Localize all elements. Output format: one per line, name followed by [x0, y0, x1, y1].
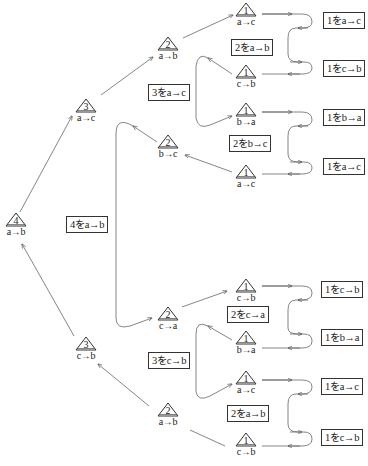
triangle-icon: 1 [235, 164, 257, 179]
svg-text:3: 3 [84, 339, 89, 350]
triangle-icon: 4 [5, 212, 27, 227]
result-box: 1をb→a [321, 329, 363, 346]
svg-text:2: 2 [166, 309, 171, 320]
tree-node: 2b→c [148, 134, 188, 159]
tree-node: 1c→b [226, 432, 266, 457]
triangle-icon: 1 [235, 64, 257, 79]
edge-2ca-to-1cb [182, 291, 227, 307]
tree-node: 3a→c [66, 98, 106, 123]
tree-node: 1c→b [226, 64, 266, 89]
tree-node: 1c→b [226, 278, 266, 303]
svg-text:4: 4 [14, 215, 19, 226]
edge-big-loop [116, 122, 152, 327]
result-box: 1をb→a [323, 109, 365, 126]
edge-2ab-to-3cb [98, 364, 149, 406]
move-label: a→c [226, 179, 266, 189]
result-box: 1をc→b [321, 429, 363, 446]
edge-r3 [262, 286, 312, 348]
result-box: 1をa→c [323, 12, 365, 29]
edge-r4 [262, 380, 312, 446]
step-label-box: 3をa→c [148, 84, 190, 101]
svg-text:1: 1 [244, 67, 249, 78]
triangle-icon: 3 [75, 98, 97, 113]
move-label: c→a [148, 321, 188, 331]
result-box: 1をc→b [321, 281, 363, 298]
recursion-tree-edges [0, 0, 368, 466]
svg-text:1: 1 [244, 5, 249, 16]
result-box: 1をc→b [323, 60, 365, 77]
tree-node: 2a→b [148, 402, 188, 427]
svg-text:2: 2 [166, 405, 171, 416]
edge-3ac-to-2ab [101, 57, 153, 95]
tree-node: 1a→c [226, 2, 266, 27]
move-label: c→b [226, 293, 266, 303]
svg-text:1: 1 [244, 333, 249, 344]
move-label: a→c [226, 385, 266, 395]
move-label: c→b [66, 351, 106, 361]
move-label: b→a [226, 345, 266, 355]
svg-text:2: 2 [166, 39, 171, 50]
tree-node: 1b→a [226, 102, 266, 127]
edge-1cb-to-2ab [190, 430, 225, 446]
move-label: b→c [148, 149, 188, 159]
move-label: c→b [226, 79, 266, 89]
edge-3cb-to-4 [22, 244, 74, 336]
triangle-icon: 2 [157, 134, 179, 149]
triangle-icon: 1 [235, 102, 257, 117]
svg-text:1: 1 [244, 373, 249, 384]
move-label: a→c [226, 17, 266, 27]
step-label-box: 2をb→c [229, 135, 271, 152]
step-label-box: 2をa→b [227, 405, 269, 422]
step-label-box: 2をa→b [231, 39, 273, 56]
svg-text:1: 1 [244, 281, 249, 292]
tree-node: 2c→a [148, 306, 188, 331]
triangle-icon: 3 [75, 336, 97, 351]
tree-node: 3c→b [66, 336, 106, 361]
triangle-icon: 2 [157, 306, 179, 321]
triangle-icon: 2 [157, 36, 179, 51]
triangle-icon: 1 [235, 278, 257, 293]
triangle-icon: 2 [157, 402, 179, 417]
triangle-icon: 1 [235, 432, 257, 447]
svg-text:3: 3 [84, 101, 89, 112]
move-label: c→b [226, 447, 266, 457]
result-box: 1をa→c [323, 158, 365, 175]
triangle-icon: 1 [235, 330, 257, 345]
edge-1ac-to-2bc [185, 155, 232, 172]
move-label: a→b [148, 417, 188, 427]
tree-node: 1a→c [226, 370, 266, 395]
svg-text:1: 1 [244, 105, 249, 116]
triangle-icon: 1 [235, 2, 257, 17]
edge-4-to-3ac [20, 116, 72, 212]
move-label: b→a [226, 117, 266, 127]
svg-text:1: 1 [244, 167, 249, 178]
tree-node: 1a→c [226, 164, 266, 189]
step-label-box: 4をa→b [66, 216, 108, 233]
move-label: a→c [66, 113, 106, 123]
svg-text:1: 1 [244, 435, 249, 446]
move-label: a→b [0, 227, 36, 237]
move-label: a→b [148, 51, 188, 61]
tree-node: 4a→b [0, 212, 36, 237]
step-label-box: 2をc→a [227, 306, 269, 323]
svg-text:2: 2 [166, 137, 171, 148]
result-box: 1をa→c [321, 378, 363, 395]
triangle-icon: 1 [235, 370, 257, 385]
tree-node: 2a→b [148, 36, 188, 61]
step-label-box: 3をc→b [148, 352, 190, 369]
tree-node: 1b→a [226, 330, 266, 355]
